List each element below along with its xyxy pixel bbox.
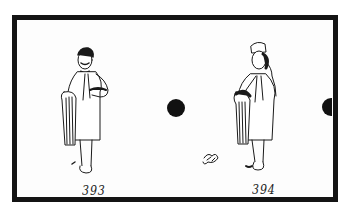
sprocket-hole-center [167,99,185,117]
frame-number-394: 394 [252,182,276,197]
frame-number-393: 393 [82,183,106,198]
